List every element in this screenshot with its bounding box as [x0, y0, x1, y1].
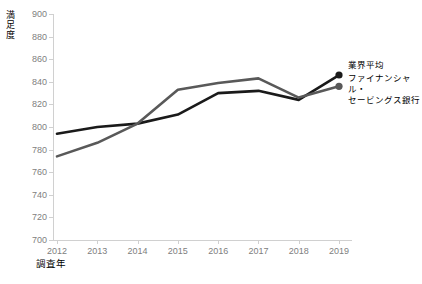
- x-tick-mark: [258, 240, 259, 244]
- satisfaction-line-chart: 満 足 度 700720740760780800820840860880900 …: [0, 0, 422, 284]
- legend-label-financial-savings-bank-line1: ファイナンシャル・: [348, 73, 422, 95]
- y-axis-title: 満 足 度: [3, 10, 17, 40]
- x-tick-mark: [299, 240, 300, 244]
- y-tick-label: 900: [23, 9, 47, 19]
- y-tick-label: 700: [23, 235, 47, 245]
- x-tick-mark: [178, 240, 179, 244]
- x-tick-mark: [97, 240, 98, 244]
- y-axis-title-char-2: 足: [3, 20, 17, 30]
- x-tick-mark: [138, 240, 139, 244]
- legend-label-financial-savings-bank-line2: セービングス銀行: [348, 95, 422, 106]
- series-layer: [53, 14, 352, 240]
- y-tick-label: 820: [23, 99, 47, 109]
- y-tick-mark: [49, 240, 53, 241]
- x-tick-mark: [218, 240, 219, 244]
- plot-area: 700720740760780800820840860880900 201220…: [53, 14, 352, 240]
- x-tick-label: 2017: [248, 246, 268, 256]
- y-axis-title-char-3: 度: [3, 30, 17, 40]
- x-tick-label: 2013: [87, 246, 107, 256]
- x-tick-label: 2018: [289, 246, 309, 256]
- x-tick-label: 2015: [168, 246, 188, 256]
- y-tick-label: 880: [23, 32, 47, 42]
- x-tick-mark: [339, 240, 340, 244]
- x-axis-title: 調査年: [36, 256, 66, 270]
- series-end-marker: [335, 83, 342, 90]
- x-tick-label: 2012: [47, 246, 67, 256]
- y-tick-label: 720: [23, 212, 47, 222]
- y-axis-title-char-1: 満: [3, 10, 17, 20]
- chart-legend: 業界平均 ファイナンシャル・ セービングス銀行: [348, 60, 422, 108]
- y-tick-label: 800: [23, 122, 47, 132]
- legend-item-financial-savings-bank: ファイナンシャル・ セービングス銀行: [348, 73, 422, 106]
- x-tick-label: 2016: [208, 246, 228, 256]
- y-tick-label: 860: [23, 54, 47, 64]
- y-tick-label: 760: [23, 167, 47, 177]
- series-line: [57, 75, 339, 134]
- x-tick-mark: [57, 240, 58, 244]
- series-line: [57, 78, 339, 156]
- y-tick-label: 840: [23, 77, 47, 87]
- y-tick-label: 780: [23, 145, 47, 155]
- legend-label-industry-average: 業界平均: [348, 60, 422, 71]
- x-tick-label: 2014: [128, 246, 148, 256]
- x-tick-label: 2019: [329, 246, 349, 256]
- series-end-marker: [335, 71, 342, 78]
- legend-item-industry-average: 業界平均: [348, 60, 422, 71]
- y-tick-label: 740: [23, 190, 47, 200]
